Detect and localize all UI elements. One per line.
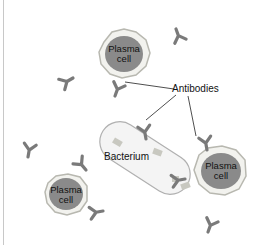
plasma-cell-bottom-left-label: Plasma cell <box>46 185 86 205</box>
plasma-cell-top-label: Plasma cell <box>104 44 144 64</box>
label-line: cell <box>200 171 242 181</box>
label-line: cell <box>46 195 86 205</box>
label-line: cell <box>104 54 144 64</box>
plasma-cell-right-label: Plasma cell <box>200 161 242 181</box>
antibody-diagram <box>0 0 256 245</box>
bacterium-label: Bacterium <box>104 152 149 163</box>
antibodies-label: Antibodies <box>172 84 219 95</box>
